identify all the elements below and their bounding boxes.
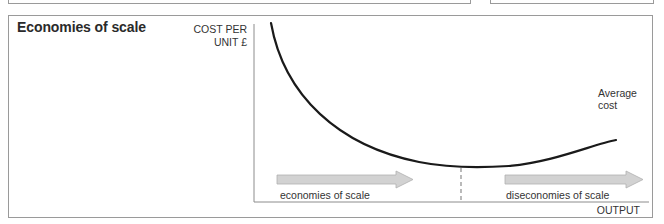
- diseconomies-of-scale-label: diseconomies of scale: [506, 189, 609, 201]
- x-axis-label: OUTPUT: [597, 204, 640, 216]
- previous-panel-right-edge: [490, 0, 654, 4]
- curve-label-line2: cost: [598, 99, 637, 111]
- average-cost-curve: [271, 23, 616, 167]
- curve-label-line1: Average: [598, 87, 637, 99]
- average-cost-label: Average cost: [598, 87, 637, 111]
- diseconomies-arrow-icon: [505, 171, 643, 188]
- economies-of-scale-panel: Economies of scale COST PER UNIT £ Avera…: [8, 15, 653, 218]
- economies-arrow-icon: [277, 171, 413, 188]
- economies-of-scale-label: economies of scale: [280, 189, 370, 201]
- previous-panel-left-edge: [8, 0, 471, 4]
